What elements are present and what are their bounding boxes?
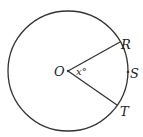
center-point (67, 70, 69, 72)
label-R: R (120, 37, 131, 52)
label-T: T (120, 104, 130, 119)
point-S (127, 71, 130, 74)
label-O: O (54, 64, 65, 79)
angle-label: x° (76, 66, 87, 77)
circle-diagram: O x° R S T (0, 0, 143, 137)
label-S: S (130, 66, 139, 81)
